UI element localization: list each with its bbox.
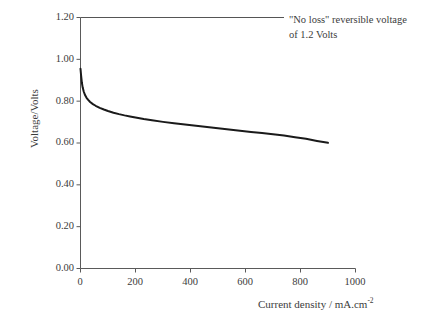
annotation-line-1: "No loss" reversible voltage — [289, 14, 407, 25]
ytick-label: 0.00 — [40, 262, 74, 274]
ytick-label: 0.40 — [40, 178, 74, 190]
y-axis-title: Voltage/Volts — [28, 89, 41, 148]
xtick-label: 200 — [113, 276, 157, 288]
ytick-label: 1.20 — [40, 11, 74, 23]
xtick-label: 600 — [223, 276, 267, 288]
x-axis-title-superscript: -2 — [367, 296, 373, 305]
x-axis-title: Current density / mA.cm-2 — [258, 298, 374, 311]
xtick-label: 400 — [168, 276, 212, 288]
annotation-no-loss-voltage: "No loss" reversible voltageof 1.2 Volts — [289, 12, 407, 42]
ytick-label: 1.00 — [40, 53, 74, 65]
data-curve — [81, 69, 329, 143]
chart-axes — [77, 18, 356, 273]
xtick-label: 800 — [278, 276, 322, 288]
ytick-label: 0.80 — [40, 95, 74, 107]
ytick-label: 0.20 — [40, 220, 74, 232]
xtick-label: 1000 — [333, 276, 377, 288]
xtick-label: 0 — [58, 276, 102, 288]
ytick-label: 0.60 — [40, 136, 74, 148]
x-axis-title-text: Current density / mA.cm — [258, 298, 367, 310]
annotation-line-2: of 1.2 Volts — [289, 27, 407, 42]
chart-figure: 1.20 1.00 0.80 0.60 0.40 0.20 0.00 0 200… — [0, 0, 425, 331]
